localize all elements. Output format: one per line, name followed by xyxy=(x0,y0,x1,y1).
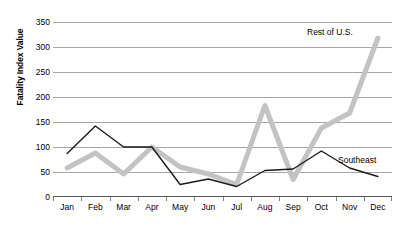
x-axis-tick-labels: JanFebMarAprMayJunJulAugSepOctNovDec xyxy=(53,199,392,219)
x-tick-label: Jan xyxy=(60,202,74,212)
y-tick-label: 350 xyxy=(36,17,50,27)
y-tick-label: 250 xyxy=(36,67,50,77)
y-axis-title: Fatality Index Value xyxy=(15,11,25,123)
x-tick-label: May xyxy=(172,202,188,212)
y-tick-label: 0 xyxy=(45,192,50,202)
series-annotation-southeast: Southeast xyxy=(338,155,376,165)
y-tick-label: 50 xyxy=(41,167,50,177)
y-tick-label: 100 xyxy=(36,142,50,152)
x-tick-label: Jun xyxy=(202,202,216,212)
x-tick-label: Apr xyxy=(145,202,158,212)
x-tick-label: Mar xyxy=(116,202,131,212)
x-tick-label: Feb xyxy=(88,202,103,212)
y-axis-tick-labels: 050100150200250300350 xyxy=(26,0,50,237)
x-tick-label: Jul xyxy=(231,202,242,212)
series-annotation-rest-of-us: Rest of U.S. xyxy=(307,27,353,37)
x-tick-label: Aug xyxy=(257,202,272,212)
fatality-index-line-chart: Fatality Index Value 0501001502002503003… xyxy=(0,0,409,237)
plot-area xyxy=(53,22,392,197)
series-line-rest-of-us xyxy=(67,38,378,185)
y-tick-label: 300 xyxy=(36,42,50,52)
x-tick-label: Sep xyxy=(286,202,301,212)
x-tick-label: Oct xyxy=(315,202,328,212)
series-paths xyxy=(53,22,392,197)
y-tick-label: 200 xyxy=(36,92,50,102)
x-tick-label: Dec xyxy=(370,202,385,212)
y-tick-label: 150 xyxy=(36,117,50,127)
x-tick-label: Nov xyxy=(342,202,357,212)
